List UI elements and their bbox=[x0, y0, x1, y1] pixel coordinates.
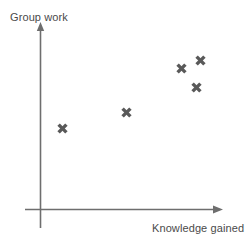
x-axis-label: Knowledge gained bbox=[152, 222, 244, 235]
data-point-marker bbox=[190, 81, 203, 94]
scatter-plot: Group work Knowledge gained bbox=[0, 0, 251, 242]
data-point-marker bbox=[120, 106, 133, 119]
data-point-marker bbox=[175, 62, 188, 75]
data-point-marker bbox=[194, 54, 207, 67]
plot-axes bbox=[0, 0, 251, 242]
bold-x-marker-icon bbox=[56, 122, 69, 135]
bold-x-marker-icon bbox=[194, 54, 207, 67]
x-axis-arrowhead bbox=[213, 206, 223, 214]
bold-x-marker-icon bbox=[190, 81, 203, 94]
bold-x-marker-icon bbox=[120, 106, 133, 119]
y-axis-label: Group work bbox=[10, 11, 68, 24]
data-point-marker bbox=[56, 122, 69, 135]
bold-x-marker-icon bbox=[175, 62, 188, 75]
